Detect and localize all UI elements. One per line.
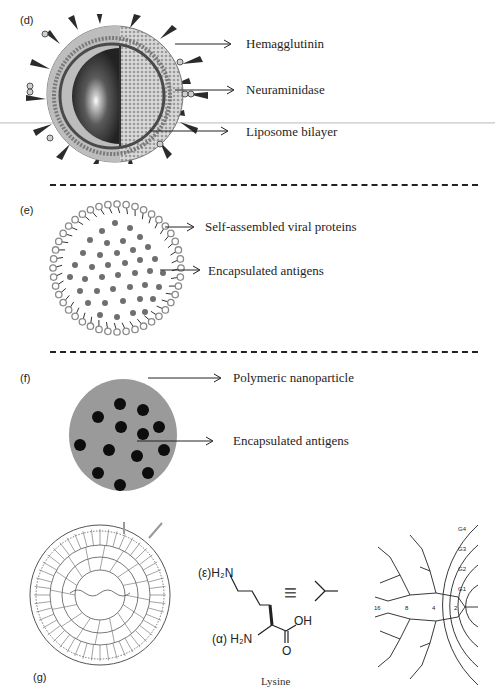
generation-label-g1: G1 <box>458 586 467 592</box>
section-divider-2 <box>50 351 478 353</box>
label-self-assembled-viral-proteins: Self-assembled viral proteins <box>205 219 357 235</box>
branch-count-16: 16 <box>374 605 381 611</box>
section-divider-1 <box>50 184 478 186</box>
generation-label-g4: G4 <box>458 526 467 532</box>
branch-count-2: 2 <box>454 605 458 611</box>
branch-symbol-icon <box>315 581 338 601</box>
panel-label-g: (g) <box>33 671 46 683</box>
epsilon-amine-label: (ε)H₂N <box>198 566 233 580</box>
label-encapsulated-antigens-f: Encapsulated antigens <box>233 433 349 449</box>
dendrimer-generation-schematic: G1 G2 G3 G4 2 4 8 16 <box>350 505 495 693</box>
hydroxyl-label: OH <box>294 614 312 628</box>
label-encapsulated-antigens-e: Encapsulated antigens <box>208 263 324 279</box>
generation-label-g2: G2 <box>458 566 467 572</box>
label-neuraminidase: Neuraminidase <box>246 82 325 98</box>
alpha-amine-label: (α) H₂N <box>212 632 252 646</box>
lysine-caption: Lysine <box>261 675 290 687</box>
label-liposome-bilayer: Liposome bilayer <box>246 124 337 140</box>
branch-count-8: 8 <box>405 605 409 611</box>
branch-count-4: 4 <box>432 605 436 611</box>
dendrimer-cross-section <box>25 520 175 670</box>
generation-label-g3: G3 <box>458 546 467 552</box>
lysine-structure: (ε)H₂N (α) H₂N OH O ≡ <box>190 555 340 665</box>
panel-f-arrows <box>0 370 495 480</box>
carbonyl-oxygen-label: O <box>282 644 291 658</box>
label-hemagglutinin: Hemagglutinin <box>246 36 324 52</box>
equivalence-symbol: ≡ <box>284 580 297 605</box>
label-polymeric-nanoparticle: Polymeric nanoparticle <box>233 370 354 386</box>
